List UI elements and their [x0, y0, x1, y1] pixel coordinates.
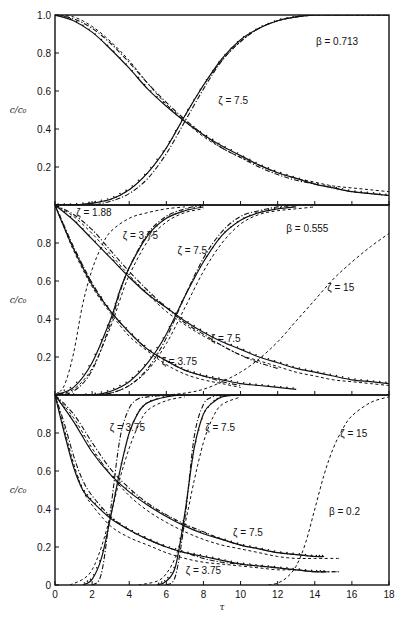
data-point [255, 383, 257, 385]
y-tick-label: 1.0 [37, 10, 51, 21]
data-point [107, 324, 109, 326]
x-tick-label: 14 [309, 589, 321, 600]
data-point [107, 253, 109, 255]
data-point [220, 396, 222, 398]
data-point [187, 552, 189, 554]
data-point [218, 377, 220, 379]
data-point [224, 146, 226, 148]
y-axis-label: c/c₀ [10, 295, 27, 305]
data-point [138, 179, 140, 181]
data-point [237, 41, 239, 43]
data-point [261, 384, 263, 386]
data-point [119, 193, 121, 195]
data-point [237, 221, 239, 223]
data-point [101, 508, 103, 510]
data-point [200, 329, 202, 331]
x-tick-label: 18 [383, 589, 395, 600]
x-tick-label: 10 [235, 589, 247, 600]
data-point [224, 559, 226, 561]
curve-annotation: ζ = 3.75 [186, 565, 222, 577]
data-point [200, 131, 202, 133]
data-point [195, 441, 197, 443]
data-point [224, 54, 226, 56]
data-point [354, 378, 356, 380]
data-point [94, 393, 96, 395]
data-point [96, 567, 98, 569]
panels-container: 0.20.40.60.81.0c/c₀β = 0.713ζ = 7.50.20.… [10, 10, 395, 601]
curve-annotation: ζ = 7.5 [177, 245, 207, 257]
data-point [113, 196, 115, 198]
data-point [213, 400, 215, 402]
data-point [144, 84, 146, 86]
data-point [255, 162, 257, 164]
curve-annotation: β = 0.555 [286, 223, 329, 234]
data-point [218, 558, 220, 560]
curve-annotation: ζ = 3.75 [123, 230, 159, 242]
data-point [320, 570, 322, 572]
data-point [323, 372, 325, 374]
data-point [268, 385, 270, 387]
data-point [175, 130, 177, 132]
data-point [162, 513, 164, 515]
data-point [76, 425, 78, 427]
data-point [170, 572, 172, 574]
y-axis-label: c/c₀ [10, 485, 27, 495]
data-point [261, 356, 263, 358]
data-point [311, 370, 313, 372]
x-tick-label: 6 [164, 589, 170, 600]
data-point [90, 498, 92, 500]
data-point [329, 185, 331, 187]
data-point [323, 570, 325, 572]
data-point [156, 225, 158, 227]
data-point [237, 152, 239, 154]
curve-annotation: ζ = 15 [327, 282, 354, 294]
data-point [317, 371, 319, 373]
data-point [183, 520, 185, 522]
y-tick-label: 0.8 [37, 48, 51, 59]
data-point [156, 541, 158, 543]
x-tick-label: 0 [52, 589, 58, 600]
data-point [107, 514, 109, 516]
data-point [319, 555, 321, 557]
data-point [268, 358, 270, 360]
curve-annotation: ζ = 3.75 [162, 356, 198, 368]
y-tick-label: 0.2 [37, 162, 51, 173]
curve-annotation: ζ = 15 [340, 428, 367, 440]
data-point [286, 387, 288, 389]
data-point [70, 387, 72, 389]
data-series-line [55, 395, 339, 559]
data-point [249, 215, 251, 217]
data-point [132, 70, 134, 72]
data-point [150, 356, 152, 358]
x-tick-label: 4 [126, 589, 132, 600]
data-point [292, 366, 294, 368]
data-point [210, 403, 212, 405]
data-point [329, 374, 331, 376]
data-point [107, 198, 109, 200]
data-point [82, 435, 84, 437]
data-point [230, 560, 232, 562]
data-point [138, 533, 140, 535]
data-point [82, 228, 84, 230]
data-point [237, 346, 239, 348]
y-tick-label: 0.4 [37, 124, 51, 135]
data-point [348, 377, 350, 379]
data-point [88, 445, 90, 447]
curve-annotation: ζ = 3.75 [110, 422, 146, 434]
data-series-line [55, 395, 339, 572]
data-point [144, 174, 146, 176]
data-point [292, 176, 294, 178]
x-axis-label: τ [220, 602, 226, 612]
data-point [158, 583, 160, 585]
curve-annotation: ζ = 7.5 [218, 95, 248, 107]
data-point [132, 185, 134, 187]
panel-middle: 0.20.40.60.8c/c₀ζ = 1.88ζ = 3.75ζ = 7.5β… [10, 205, 389, 395]
y-tick-label: 0.2 [37, 352, 51, 363]
data-series-line [166, 234, 389, 396]
data-point [132, 530, 134, 532]
data-point [316, 555, 318, 557]
data-point [206, 332, 208, 334]
data-point [101, 39, 103, 41]
data-point [82, 25, 84, 27]
data-point [200, 554, 202, 556]
